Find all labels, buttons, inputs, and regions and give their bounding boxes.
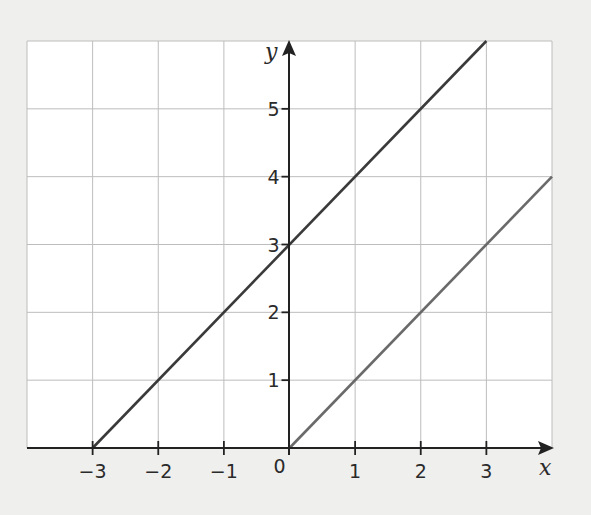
- y-tick-label: 2: [267, 301, 279, 323]
- x-tick-label: 2: [415, 460, 427, 482]
- x-tick-label: −2: [144, 460, 172, 482]
- y-tick-label: 3: [267, 234, 279, 256]
- y-tick-label: 4: [267, 166, 279, 188]
- x-tick-label: −3: [79, 460, 107, 482]
- x-tick-label: −1: [210, 460, 238, 482]
- x-tick-label: 0: [273, 455, 285, 477]
- x-tick-label: 1: [349, 460, 361, 482]
- y-tick-label: 1: [267, 369, 279, 391]
- x-axis-label: x: [539, 455, 552, 480]
- y-axis-label: y: [264, 39, 278, 64]
- x-tick-label: 3: [480, 460, 492, 482]
- line-graph: −3−2−1012312345 x y: [0, 0, 591, 515]
- y-tick-label: 5: [267, 98, 279, 120]
